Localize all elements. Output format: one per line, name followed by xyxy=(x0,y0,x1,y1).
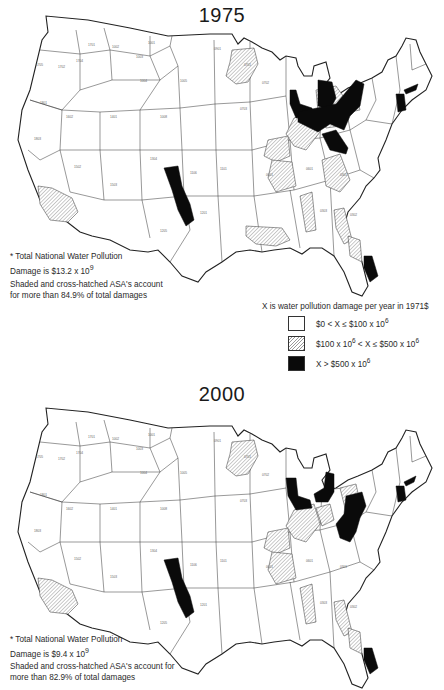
legend-swatch-white xyxy=(288,316,305,331)
svg-text:0701: 0701 xyxy=(244,63,251,67)
share-note-1975: Shaded and cross-hatched ASA's account f… xyxy=(10,279,163,301)
svg-text:1801: 1801 xyxy=(40,101,47,105)
svg-text:0703: 0703 xyxy=(240,107,247,111)
svg-text:1005: 1005 xyxy=(180,471,187,475)
svg-text:1702: 1702 xyxy=(58,65,65,69)
svg-text:1304: 1304 xyxy=(150,549,157,553)
map-panel-1975: 1975 xyxy=(0,0,444,345)
svg-text:1701: 1701 xyxy=(88,435,95,439)
svg-text:1205: 1205 xyxy=(160,621,167,625)
svg-text:0302: 0302 xyxy=(350,213,357,217)
svg-text:1008: 1008 xyxy=(160,507,167,511)
svg-text:0702: 0702 xyxy=(262,81,269,85)
svg-text:0703: 0703 xyxy=(240,499,247,503)
svg-text:1401: 1401 xyxy=(110,507,117,511)
svg-text:0303: 0303 xyxy=(320,209,327,213)
svg-text:1004: 1004 xyxy=(140,471,147,475)
svg-text:1701: 1701 xyxy=(88,43,95,47)
svg-text:1106: 1106 xyxy=(190,563,197,567)
svg-text:1803: 1803 xyxy=(34,529,41,533)
svg-text:0601: 0601 xyxy=(306,167,313,171)
svg-text:1801: 1801 xyxy=(40,493,47,497)
map-panel-2000: 2000 xyxy=(0,345,444,690)
svg-text:0601: 0601 xyxy=(306,559,313,563)
svg-text:1003: 1003 xyxy=(136,55,143,59)
svg-text:1106: 1106 xyxy=(190,171,197,175)
svg-text:1704: 1704 xyxy=(76,451,83,455)
svg-text:0702: 0702 xyxy=(262,473,269,477)
svg-text:1001: 1001 xyxy=(148,41,155,45)
svg-text:1705: 1705 xyxy=(36,63,43,67)
svg-text:1201: 1201 xyxy=(200,211,207,215)
svg-text:0601: 0601 xyxy=(266,173,273,177)
svg-text:1401: 1401 xyxy=(110,115,117,119)
svg-text:1002: 1002 xyxy=(112,45,119,49)
svg-text:1803: 1803 xyxy=(34,137,41,141)
svg-text:0303: 0303 xyxy=(320,601,327,605)
svg-text:1205: 1205 xyxy=(160,229,167,233)
svg-text:1101: 1101 xyxy=(220,167,227,171)
svg-text:1705: 1705 xyxy=(36,455,43,459)
svg-text:1005: 1005 xyxy=(180,79,187,83)
svg-text:0301: 0301 xyxy=(340,565,347,569)
svg-text:1004: 1004 xyxy=(140,79,147,83)
svg-text:1602: 1602 xyxy=(66,507,73,511)
svg-text:0901: 0901 xyxy=(214,439,221,443)
svg-text:1502: 1502 xyxy=(74,557,81,561)
svg-text:1002: 1002 xyxy=(112,437,119,441)
svg-text:1503: 1503 xyxy=(110,575,117,579)
svg-text:1201: 1201 xyxy=(200,603,207,607)
svg-text:1101: 1101 xyxy=(220,559,227,563)
svg-text:0302: 0302 xyxy=(350,605,357,609)
svg-text:1304: 1304 xyxy=(150,157,157,161)
total-damage-note-2000: * Total National Water Pollution Damage … xyxy=(10,634,122,660)
svg-text:1008: 1008 xyxy=(160,115,167,119)
legend-title: X is water pollution damage per year in … xyxy=(262,302,444,311)
svg-text:1503: 1503 xyxy=(110,183,117,187)
svg-text:1602: 1602 xyxy=(66,115,73,119)
svg-text:1001: 1001 xyxy=(148,433,155,437)
svg-text:0901: 0901 xyxy=(214,47,221,51)
total-damage-note-1975: * Total National Water Pollution Damage … xyxy=(10,251,122,277)
legend-item-low: $0 < X ≤ $100 x 106 xyxy=(288,314,389,332)
svg-text:1704: 1704 xyxy=(76,59,83,63)
svg-text:0301: 0301 xyxy=(340,173,347,177)
svg-text:0601: 0601 xyxy=(266,565,273,569)
svg-text:1502: 1502 xyxy=(74,165,81,169)
svg-text:1003: 1003 xyxy=(136,447,143,451)
svg-text:1702: 1702 xyxy=(58,457,65,461)
share-note-2000: Shaded and cross-hatched ASA's account f… xyxy=(10,661,175,683)
legend: X is water pollution damage per year in … xyxy=(262,302,444,311)
svg-text:0701: 0701 xyxy=(244,455,251,459)
